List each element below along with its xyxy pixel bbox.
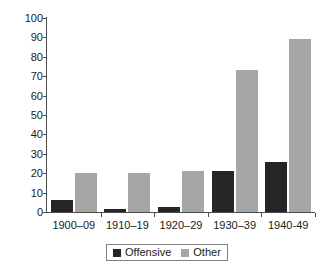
- bar-group: [261, 18, 315, 212]
- bar-offensive: [212, 171, 234, 212]
- x-axis-tick-label: 1900–09: [47, 219, 101, 231]
- x-axis-tick-label: 1920–29: [154, 219, 208, 231]
- y-axis-tick-mark: [43, 154, 47, 155]
- bar-other: [128, 173, 150, 212]
- bar-other: [289, 39, 311, 212]
- y-axis-tick-mark: [43, 96, 47, 97]
- bar-group: [101, 18, 155, 212]
- x-axis-tick-label: 1930–39: [208, 219, 262, 231]
- y-axis-tick-label: 60: [31, 90, 43, 102]
- x-axis-line: [46, 212, 315, 213]
- bar-group: [154, 18, 208, 212]
- y-axis-tick-mark: [43, 37, 47, 38]
- bar-other: [75, 173, 97, 212]
- y-axis-tick-mark: [43, 115, 47, 116]
- y-axis-tick-label: 80: [31, 51, 43, 63]
- x-axis-tick-mark: [315, 213, 316, 217]
- y-axis-tick-label: 20: [31, 167, 43, 179]
- bar-other: [236, 70, 258, 212]
- other-swatch-icon: [181, 249, 189, 257]
- y-axis-tick-mark: [43, 193, 47, 194]
- y-axis-tick-label: 10: [31, 187, 43, 199]
- x-axis-tick-mark: [208, 213, 209, 217]
- offensive-swatch-icon: [113, 249, 121, 257]
- y-axis-tick-label: 40: [31, 128, 43, 140]
- y-axis-tick-label: 50: [31, 109, 43, 121]
- y-axis-tick-mark: [43, 57, 47, 58]
- bar-offensive: [265, 162, 287, 212]
- x-axis-tick-mark: [261, 213, 262, 217]
- x-axis-tick-label: 1940-49: [261, 219, 315, 231]
- bar-other: [182, 171, 204, 212]
- y-axis-tick-mark: [43, 134, 47, 135]
- legend-label-other: Other: [193, 247, 221, 258]
- y-axis-tick-label: 90: [31, 31, 43, 43]
- legend-label-offensive: Offensive: [125, 247, 171, 258]
- x-axis-tick-label: 1910–19: [101, 219, 155, 231]
- legend-item-offensive: Offensive: [113, 247, 171, 258]
- bar-chart: 0102030405060708090100 Offensive Other 1…: [0, 0, 329, 270]
- y-axis-tick-mark: [43, 76, 47, 77]
- y-axis-tick-mark: [43, 18, 47, 19]
- y-axis-tick-labels: 0102030405060708090100: [0, 0, 43, 270]
- chart-legend: Offensive Other: [106, 244, 228, 261]
- bar-group: [47, 18, 101, 212]
- bar-offensive: [51, 200, 73, 212]
- x-axis-tick-mark: [154, 213, 155, 217]
- y-axis-tick-label: 30: [31, 148, 43, 160]
- y-axis-tick-label: 70: [31, 70, 43, 82]
- plot-area: [47, 18, 315, 212]
- legend-item-other: Other: [181, 247, 221, 258]
- y-axis-tick-label: 100: [25, 12, 43, 24]
- y-axis-tick-mark: [43, 212, 47, 213]
- x-axis-tick-mark: [101, 213, 102, 217]
- bar-group: [208, 18, 262, 212]
- bar-offensive: [158, 207, 180, 212]
- bar-offensive: [104, 209, 126, 212]
- y-axis-tick-mark: [43, 173, 47, 174]
